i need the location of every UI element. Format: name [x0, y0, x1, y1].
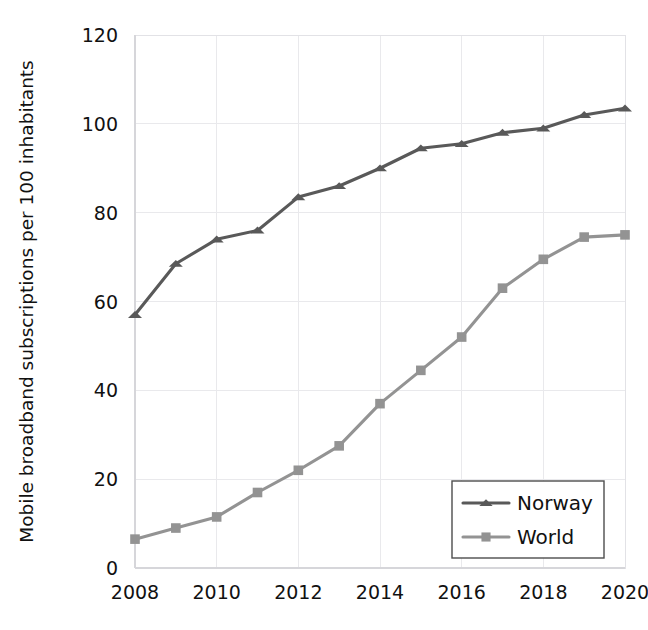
data-point-marker-triangle	[128, 311, 142, 318]
data-point-marker-square	[294, 465, 304, 475]
data-point-marker-square	[212, 512, 222, 522]
data-point-marker-square	[457, 332, 467, 342]
y-tick-label: 60	[94, 291, 118, 313]
y-axis-tick-labels: 020406080100120	[82, 24, 118, 579]
chart-legend: Norway World	[452, 481, 604, 558]
chart-container: 020406080100120 200820102012201420162018…	[0, 0, 648, 630]
x-tick-label: 2012	[274, 581, 322, 603]
data-point-marker-square	[498, 283, 508, 293]
data-point-marker-square	[579, 232, 589, 242]
y-tick-label: 100	[82, 113, 118, 135]
data-point-marker-square	[620, 230, 630, 240]
data-point-marker-square	[375, 399, 385, 409]
y-tick-label: 0	[106, 557, 118, 579]
legend-label-norway: Norway	[517, 491, 593, 515]
y-axis-title: Mobile broadband subscriptions per 100 i…	[16, 60, 37, 543]
data-point-marker-square	[334, 441, 344, 451]
data-point-marker-square	[416, 366, 426, 376]
y-axis-title-text: Mobile broadband subscriptions per 100 i…	[16, 60, 37, 543]
x-tick-label: 2014	[356, 581, 404, 603]
data-point-marker-square	[481, 532, 490, 541]
x-axis-tick-labels: 2008201020122014201620182020	[111, 581, 648, 603]
data-point-marker-square	[253, 488, 263, 498]
legend-label-world: World	[517, 525, 574, 549]
x-tick-label: 2008	[111, 581, 159, 603]
x-tick-label: 2020	[601, 581, 648, 603]
y-tick-label: 40	[94, 379, 118, 401]
x-tick-label: 2018	[519, 581, 567, 603]
data-point-marker-square	[130, 534, 140, 544]
data-point-marker-square	[171, 523, 181, 533]
x-tick-label: 2010	[192, 581, 240, 603]
y-tick-label: 20	[94, 468, 118, 490]
x-tick-label: 2016	[437, 581, 485, 603]
y-tick-label: 80	[94, 202, 118, 224]
legend-marker-world	[481, 532, 490, 541]
line-chart: 020406080100120 200820102012201420162018…	[0, 0, 648, 630]
y-tick-label: 120	[82, 24, 118, 46]
data-point-marker-square	[539, 255, 549, 265]
